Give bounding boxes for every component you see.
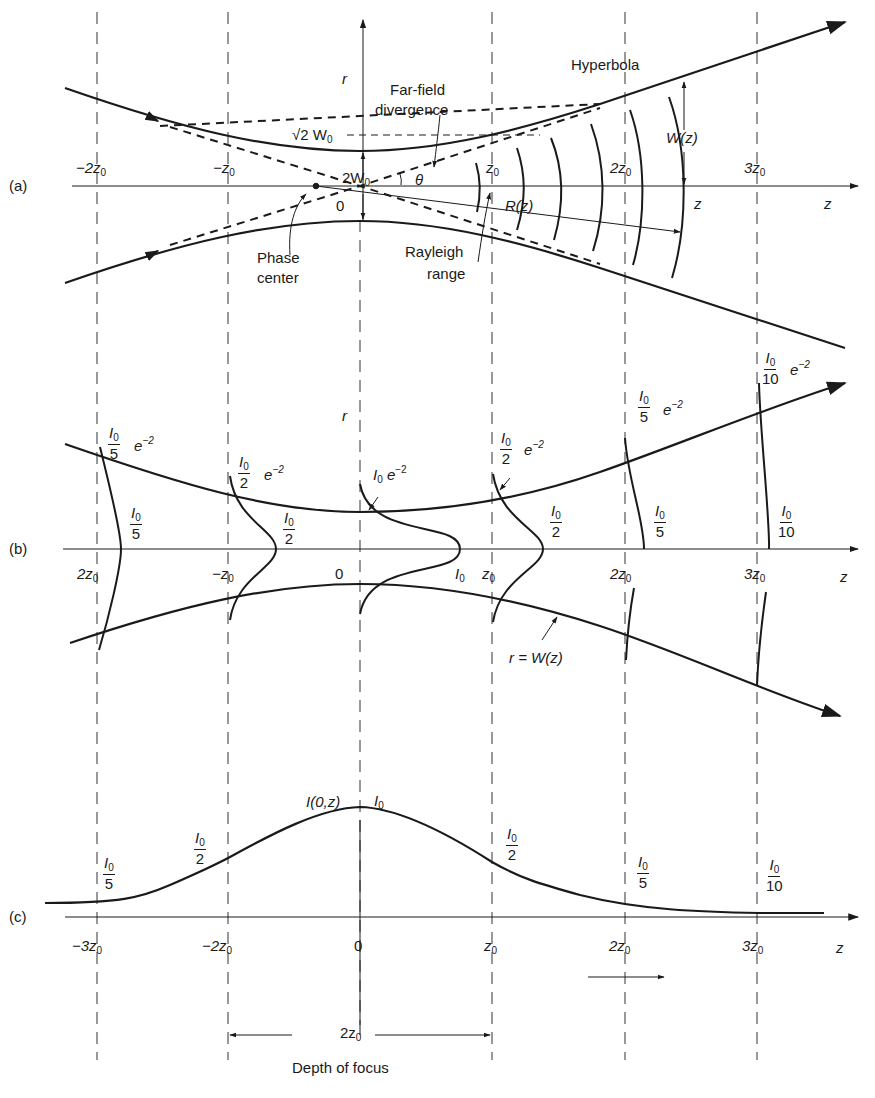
- edge-frac-1: I05: [108, 425, 120, 461]
- edge-frac-3: I02: [500, 430, 512, 466]
- z-axis-label-b: z: [840, 569, 848, 584]
- depth-of-focus-value: 2z0: [340, 1025, 361, 1043]
- far-field-label-2: divergence: [375, 102, 448, 117]
- edge-exp-3: e−2: [524, 440, 544, 457]
- tick-c-z0: z0: [484, 938, 497, 956]
- panel-c: [45, 807, 858, 1035]
- beam-width-label: W(z): [666, 130, 698, 145]
- edge-frac-5: I010: [762, 350, 779, 386]
- edge-exp-5: e−2: [790, 360, 810, 377]
- curve-frac-1: I05: [103, 855, 115, 891]
- panel-b: [63, 383, 858, 716]
- r-equals-w-label: r = W(z): [509, 650, 563, 665]
- far-field-label-1: Far-field: [390, 82, 445, 97]
- z-at-curve-label: z: [694, 196, 702, 211]
- r-axis-label-a: r: [342, 71, 347, 86]
- edge-exp-1: e−2: [134, 436, 154, 453]
- rayleigh-label-2: range: [427, 266, 465, 281]
- peak-label-c: I0: [374, 793, 384, 811]
- curve-frac-2: I02: [194, 830, 206, 866]
- curve-frac-3: I02: [506, 826, 518, 862]
- peak-frac-1: I05: [130, 505, 142, 541]
- z-axis-label-a: z: [824, 196, 832, 211]
- curve-frac-5: I010: [766, 857, 783, 893]
- tick-a-minus-2z0: −2z0: [76, 160, 106, 178]
- depth-of-focus-label: Depth of focus: [292, 1060, 389, 1075]
- tick-c-2z0: 2z0: [609, 938, 630, 956]
- edge-label-center: I0 e−2: [373, 465, 407, 485]
- origin-a: 0: [336, 198, 344, 213]
- panel-c-label: (c): [9, 909, 27, 924]
- panel-a-label: (a): [9, 178, 27, 193]
- tick-b-3z0: 3z0: [744, 566, 765, 584]
- curve-frac-4: I05: [637, 854, 649, 890]
- peak-intensity-label-b: I0: [455, 566, 465, 584]
- tick-b-z0: z0: [482, 566, 495, 584]
- intensity-axis-title: I(0,z): [306, 794, 340, 809]
- hyperbola-label: Hyperbola: [571, 57, 639, 72]
- tick-b-2z0-right: 2z0: [610, 566, 631, 584]
- peak-frac-3: I02: [550, 503, 562, 539]
- edge-exp-4: e−2: [663, 400, 683, 417]
- edge-frac-4: I05: [638, 388, 650, 424]
- peak-frac-2: I02: [283, 510, 295, 546]
- theta-label: θ: [415, 172, 423, 187]
- tick-a-minus-z0: −z0: [213, 160, 235, 178]
- tick-a-3z0: 3z0: [744, 160, 765, 178]
- z-axis-label-c: z: [836, 940, 844, 955]
- tick-c-minus-3z0: −3z0: [72, 938, 102, 956]
- rayleigh-label-1: Rayleigh: [405, 244, 463, 259]
- panel-b-label: (b): [9, 541, 27, 556]
- tick-c-minus-2z0: −2z0: [202, 938, 232, 956]
- tick-a-2z0: 2z0: [610, 160, 631, 178]
- tick-c-3z0: 3z0: [742, 938, 763, 956]
- tick-b-2z0: 2z0: [77, 566, 98, 584]
- r-axis-label-b: r: [342, 408, 347, 423]
- origin-b: 0: [335, 566, 343, 581]
- peak-frac-4: I05: [654, 503, 666, 539]
- sqrt2-w0-label: √2 W0: [292, 127, 332, 145]
- tick-c-zero: 0: [354, 938, 362, 953]
- two-w0-label: 2W0: [342, 170, 370, 188]
- edge-exp-2: e−2: [264, 465, 284, 482]
- phase-center-label-2: center: [257, 270, 299, 285]
- tick-b-minus-z0: −z0: [212, 566, 234, 584]
- phase-center-label-1: Phase: [257, 250, 300, 265]
- intensity-curve: [45, 807, 824, 913]
- peak-frac-5: I010: [778, 503, 795, 539]
- panel-a: [65, 20, 858, 348]
- radius-of-curvature-label: R(z): [505, 198, 533, 213]
- edge-frac-2: I02: [238, 454, 250, 490]
- tick-a-z0: z0: [486, 160, 499, 178]
